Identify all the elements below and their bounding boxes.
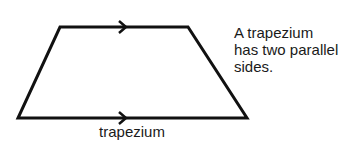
- trapezium-shape: [18, 27, 247, 118]
- description-line: has two parallel: [234, 41, 338, 58]
- description-line: A trapezium: [234, 24, 338, 41]
- shape-label: trapezium: [97, 123, 167, 140]
- description-text: A trapezium has two parallel sides.: [234, 24, 338, 75]
- description-line: sides.: [234, 58, 338, 75]
